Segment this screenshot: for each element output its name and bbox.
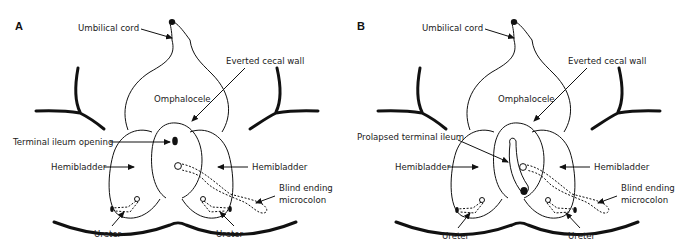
blind-ending-microcolon <box>527 165 609 213</box>
hemibladder-right <box>524 130 575 218</box>
label-umbilical-cord: Umbilical cord <box>78 23 139 33</box>
ureter-left-opening <box>480 198 485 203</box>
arrow-umbilical-cord <box>141 29 172 38</box>
label-center-feature: Terminal ileum opening <box>12 137 113 147</box>
label-ureter-right: Ureter <box>216 229 244 239</box>
microcolon-opening <box>520 164 527 171</box>
arrow-umbilical-cord <box>485 29 514 38</box>
perineum-contour <box>54 222 296 235</box>
label-blind-ending-line2: microcolon <box>279 195 326 205</box>
label-hemibladder-right: Hemibladder <box>252 162 308 172</box>
right-leg-contour <box>276 68 280 112</box>
label-center-feature: Prolapsed terminal ileum <box>357 132 464 142</box>
label-blind-ending-line1: Blind ending <box>621 183 675 193</box>
ureter-left-opening <box>135 197 140 202</box>
hemibladder-right <box>182 130 233 218</box>
omphalocele-sac <box>125 40 229 132</box>
label-everted-cecal-wall: Everted cecal wall <box>226 56 304 66</box>
panel-b: B Umbilical cord Everted cecal wall Omph… <box>357 19 675 241</box>
umbilical-cord-tip <box>169 19 175 25</box>
label-umbilical-cord: Umbilical cord <box>422 23 483 33</box>
ureter-left-duct <box>457 202 483 213</box>
microcolon-opening <box>175 163 182 170</box>
label-blind-ending-line1: Blind ending <box>279 183 333 193</box>
terminal-ileum-opening <box>172 137 178 145</box>
ureter-left-stoma <box>455 207 459 213</box>
ureter-right-opening <box>546 198 551 203</box>
right-flank-contour <box>592 111 660 129</box>
omphalocele-sac <box>467 40 571 132</box>
prolapsed-ileum-tip <box>520 187 527 195</box>
arrow-ureter-left <box>458 213 470 228</box>
label-ureter-right: Ureter <box>568 231 596 241</box>
arrow-center-feature <box>458 140 508 162</box>
cloacal-exstrophy-figure: A Umbilical cord Everted cecal wall <box>0 0 681 251</box>
label-ureter-left: Ureter <box>94 229 122 239</box>
left-flank-contour <box>378 111 446 129</box>
umbilical-cord-tip <box>511 19 517 25</box>
left-leg-contour <box>76 68 80 112</box>
label-hemibladder-right: Hemibladder <box>594 162 650 172</box>
arrow-ureter-right <box>220 212 234 226</box>
panel-letter-a: A <box>15 20 23 32</box>
panel-a: A Umbilical cord Everted cecal wall <box>12 19 333 239</box>
label-hemibladder-left: Hemibladder <box>51 162 107 172</box>
everted-cecal-wall-plate <box>494 123 544 198</box>
label-omphalocele: Omphalocele <box>154 94 211 104</box>
ureter-right-duct <box>202 201 228 212</box>
label-omphalocele: Omphalocele <box>498 94 555 104</box>
ureter-left-duct <box>112 201 138 212</box>
everted-cecal-wall-plate <box>152 123 202 198</box>
arrow-ureter-right <box>566 213 580 228</box>
left-leg-contour <box>418 68 422 112</box>
ureter-right-stoma <box>228 206 232 212</box>
ureter-left-stoma <box>110 206 114 212</box>
panel-letter-b: B <box>357 20 365 32</box>
label-ureter-left: Ureter <box>442 231 470 241</box>
label-hemibladder-left: Hemibladder <box>395 162 451 172</box>
ureter-right-opening <box>201 197 206 202</box>
label-everted-cecal-wall: Everted cecal wall <box>568 56 646 66</box>
arrow-blind-ending <box>598 196 617 203</box>
right-flank-contour <box>250 111 318 129</box>
right-leg-contour <box>618 68 622 112</box>
arrow-blind-ending <box>256 196 275 203</box>
ureter-right-stoma <box>573 207 577 213</box>
perineum-contour <box>396 222 638 235</box>
label-blind-ending-line2: microcolon <box>621 195 668 205</box>
left-flank-contour <box>36 111 104 129</box>
